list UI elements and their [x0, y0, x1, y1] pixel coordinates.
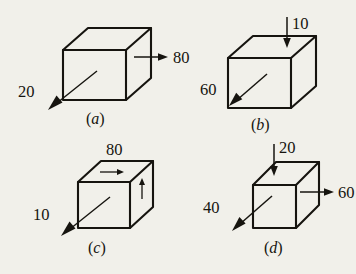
force-c-top-shear-label: 80	[106, 140, 123, 159]
force-d-top-label: 20	[279, 138, 296, 157]
figure-root: 80 20 (a) 10	[0, 0, 356, 274]
cube-a	[63, 28, 151, 100]
force-a-frontleft-label: 20	[18, 82, 35, 101]
caption-a: (a)	[86, 110, 105, 128]
caption-d: (d)	[264, 239, 283, 257]
figure-canvas: 80 20 (a) 10	[0, 0, 356, 274]
caption-c: (c)	[88, 239, 106, 257]
caption-b: (b)	[251, 116, 270, 134]
force-b-top-label: 10	[292, 14, 309, 33]
force-c-frontleft-label: 10	[33, 205, 50, 224]
force-a-right-label: 80	[173, 48, 190, 67]
force-d-frontleft-label: 40	[203, 198, 220, 217]
force-b-frontleft-label: 60	[200, 80, 217, 99]
force-d-right-label: 60	[338, 183, 355, 202]
